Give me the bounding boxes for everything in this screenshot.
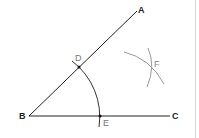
arc-from-e <box>147 48 152 87</box>
label-a: A <box>138 6 145 15</box>
label-e: E <box>103 119 109 128</box>
label-b: B <box>19 112 26 121</box>
label-f: F <box>154 60 160 69</box>
construction-drawing <box>0 0 199 138</box>
geometry-diagram: A B C D E F <box>0 0 199 138</box>
point-d <box>78 66 81 69</box>
ray-ba <box>29 11 137 116</box>
arc-de <box>72 61 100 127</box>
label-c: C <box>172 112 179 121</box>
label-d: D <box>75 54 82 63</box>
point-e <box>99 115 102 118</box>
